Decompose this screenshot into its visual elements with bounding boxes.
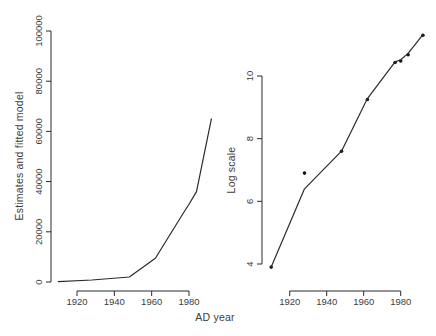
x-tick-label: 1980 — [390, 296, 411, 307]
series-line — [271, 35, 423, 268]
data-point — [303, 171, 307, 175]
figure: 0200004000060000800001000001920194019601… — [0, 0, 436, 336]
y-tick-label: 80000 — [33, 68, 44, 94]
x-tick-label: 1920 — [279, 296, 300, 307]
chart-canvas: 0200004000060000800001000001920194019601… — [0, 0, 436, 336]
x-tick-label: 1920 — [66, 296, 87, 307]
y-tick-label: 40000 — [33, 168, 44, 194]
y-tick-label: 20000 — [33, 219, 44, 245]
x-axis-title: AD year — [195, 311, 234, 323]
y-tick-label: 0 — [33, 279, 44, 284]
x-tick-label: 1980 — [178, 296, 199, 307]
x-tick-label: 1940 — [316, 296, 337, 307]
y-tick-label: 10 — [244, 71, 255, 82]
series-line — [58, 119, 211, 282]
y-tick-label: 6 — [244, 199, 255, 204]
x-tick-label: 1960 — [141, 296, 162, 307]
left-panel: 0200004000060000800001000001920194019601… — [33, 15, 211, 307]
right-panel: 468101920194019601980 — [244, 34, 425, 308]
right-y-axis-title: Log scale — [225, 147, 237, 194]
x-tick-label: 1940 — [104, 296, 125, 307]
y-tick-label: 100000 — [33, 15, 44, 47]
x-tick-label: 1960 — [353, 296, 374, 307]
y-tick-label: 8 — [244, 136, 255, 141]
left-y-axis-title: Estimates and fitted model — [13, 92, 25, 221]
y-tick-label: 60000 — [33, 118, 44, 144]
y-tick-label: 4 — [244, 261, 255, 266]
